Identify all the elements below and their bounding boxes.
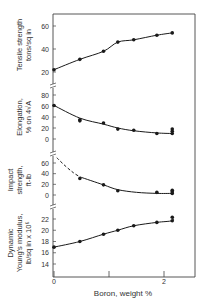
data-point: [155, 132, 159, 136]
data-point: [102, 121, 106, 125]
data-point: [132, 224, 136, 228]
y-tick-label: 20: [41, 181, 49, 188]
y-tick-label: 60: [41, 103, 49, 110]
data-point: [78, 177, 82, 181]
x-axis-label: Boron, weight %: [94, 289, 152, 298]
data-point: [78, 119, 82, 123]
y-axis-label: ft-lb: [24, 174, 33, 187]
data-point: [116, 40, 120, 44]
data-point: [52, 245, 56, 249]
y-axis-label: % on 4√A: [24, 101, 33, 133]
data-point: [102, 50, 106, 54]
data-point: [78, 240, 82, 244]
y-axis-label: Elongation,: [15, 98, 24, 136]
y-tick-label: 18: [41, 238, 49, 245]
data-point: [170, 219, 174, 223]
y-tick-label: 20: [41, 69, 49, 76]
y-tick-label: 0: [45, 136, 49, 143]
y-axis-label: Dynamic: [6, 228, 15, 257]
axis-break-mark: [50, 86, 56, 88]
y-tick-label: 20: [41, 125, 49, 132]
data-point: [116, 189, 120, 193]
trend-line: [54, 105, 172, 133]
data-point: [132, 128, 136, 132]
y-tick-label: 22: [41, 216, 49, 223]
axis-break-mark: [50, 207, 56, 209]
y-tick-label: 60: [41, 160, 49, 167]
y-axis-label: Impact: [6, 168, 15, 191]
y-tick-label: 40: [41, 170, 49, 177]
y-axis-label: Tensile strength: [15, 19, 24, 72]
y-tick-label: 16: [41, 249, 49, 256]
data-point: [102, 232, 106, 236]
data-point: [116, 228, 120, 232]
y-tick-label: 40: [41, 46, 49, 53]
data-point: [102, 183, 106, 187]
data-point: [116, 127, 120, 131]
data-point: [170, 188, 174, 192]
trend-line: [54, 33, 172, 70]
data-point: [155, 191, 159, 195]
data-point: [132, 38, 136, 42]
trend-line: [80, 177, 172, 194]
y-tick-label: 80: [41, 92, 49, 99]
y-axis-label: lb/sq in x 10⁶: [24, 221, 33, 264]
axis-break-mark: [50, 154, 56, 156]
y-axis-label: tons/sq in: [24, 29, 33, 61]
y-tick-label: 20: [41, 227, 49, 234]
y-axis-label: strength,: [15, 165, 24, 194]
data-point: [170, 216, 174, 220]
data-point: [52, 104, 56, 108]
x-tick-label: 2: [162, 278, 166, 285]
x-tick-label: 0: [52, 278, 56, 285]
plot-frame: [53, 14, 195, 277]
data-point: [78, 58, 82, 62]
y-axis-label: Young's modulus,: [15, 214, 24, 273]
y-tick-label: 0: [45, 192, 49, 199]
chart-figure: 02Boron, weight %204060Tensile strengtht…: [0, 0, 204, 301]
data-point: [170, 31, 174, 35]
dashed-trend-line: [57, 158, 80, 177]
y-tick-label: 60: [41, 23, 49, 30]
data-point: [52, 68, 56, 72]
data-point: [155, 33, 159, 37]
y-tick-label: 14: [41, 261, 49, 268]
data-point: [170, 127, 174, 131]
chart-canvas: 02Boron, weight %204060Tensile strengtht…: [0, 0, 204, 301]
data-point: [155, 221, 159, 225]
y-tick-label: 40: [41, 114, 49, 121]
